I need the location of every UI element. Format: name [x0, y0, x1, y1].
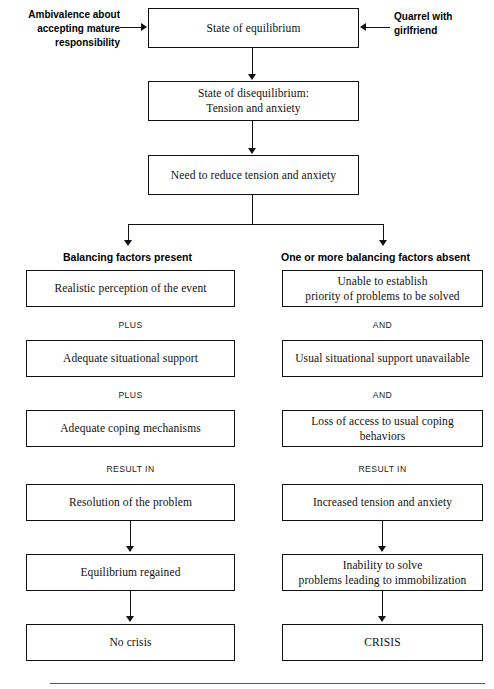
branch-left-arrowhead-icon: [124, 240, 132, 246]
branch-stem-line: [252, 195, 253, 225]
node-label: Increased tension and anxiety: [313, 495, 452, 510]
node-label: Loss of access to usual coping behaviors: [289, 414, 476, 443]
node-state-of-disequilibrium: State of disequilibrium: Tension and anx…: [148, 81, 359, 121]
side-note-right: Quarrel with girlfriend: [394, 10, 490, 38]
node-label: Usual situational support unavailable: [295, 351, 470, 366]
right-note-connector-line: [364, 27, 390, 28]
arrowhead-down-icon: [126, 616, 134, 622]
connector-word-result-in-left: RESULT IN: [26, 464, 235, 474]
node-need-to-reduce-tension: Need to reduce tension and anxiety: [148, 155, 359, 195]
node-crisis: CRISIS: [282, 624, 483, 661]
connector-word-result-in-right: RESULT IN: [282, 464, 483, 474]
connector-word-plus-1: PLUS: [26, 320, 235, 330]
connector-word-plus-2: PLUS: [26, 390, 235, 400]
crisis-flowchart-figure: Ambivalence about accepting mature respo…: [0, 0, 494, 689]
bottom-divider-rule: [50, 683, 485, 684]
arrowhead-down-icon: [248, 148, 256, 154]
branch-crossbar-line: [128, 224, 384, 225]
node-realistic-perception: Realistic perception of the event: [26, 270, 235, 307]
connector-increased-tension-to-inability: [382, 521, 383, 549]
connector-inability-to-crisis: [382, 591, 383, 619]
node-unable-to-establish-priority: Unable to establish priority of problems…: [282, 270, 483, 307]
side-note-left: Ambivalence about accepting mature respo…: [6, 8, 120, 49]
connector-word-and-1: AND: [282, 320, 483, 330]
branch-right-arrowhead-icon: [379, 240, 387, 246]
node-label: Realistic perception of the event: [54, 281, 206, 296]
column-heading-balancing-present: Balancing factors present: [20, 251, 235, 263]
node-inability-to-solve-problems: Inability to solve problems leading to i…: [282, 554, 483, 591]
node-increased-tension-and-anxiety: Increased tension and anxiety: [282, 484, 483, 521]
node-label: No crisis: [109, 635, 151, 650]
node-adequate-coping-mechanisms: Adequate coping mechanisms: [26, 410, 235, 447]
node-label: Inability to solve problems leading to i…: [299, 558, 467, 587]
node-label: Need to reduce tension and anxiety: [171, 168, 336, 183]
connector-resolution-to-equilibrium: [130, 521, 131, 549]
arrowhead-down-icon: [378, 546, 386, 552]
node-state-of-equilibrium: State of equilibrium: [148, 8, 359, 48]
node-adequate-situational-support: Adequate situational support: [26, 340, 235, 377]
node-no-crisis: No crisis: [26, 624, 235, 661]
connector-word-and-2: AND: [282, 390, 483, 400]
node-usual-situational-support-unavailable: Usual situational support unavailable: [282, 340, 483, 377]
node-label: State of equilibrium: [207, 21, 301, 36]
arrowhead-down-icon: [126, 546, 134, 552]
connector-equilibrium-to-no-crisis: [130, 591, 131, 619]
connector-equilibrium-to-disequilibrium: [252, 48, 253, 77]
node-label: Adequate situational support: [63, 351, 198, 366]
left-note-arrowhead-icon: [141, 23, 147, 31]
arrowhead-down-icon: [248, 74, 256, 80]
node-loss-of-access-to-coping: Loss of access to usual coping behaviors: [282, 410, 483, 447]
right-note-arrowhead-icon: [360, 23, 366, 31]
node-label: CRISIS: [364, 635, 400, 650]
arrowhead-down-icon: [378, 616, 386, 622]
node-label: State of disequilibrium: Tension and anx…: [198, 86, 309, 115]
node-label: Adequate coping mechanisms: [60, 421, 201, 436]
node-label: Resolution of the problem: [69, 495, 192, 510]
node-label: Equilibrium regained: [80, 565, 180, 580]
node-equilibrium-regained: Equilibrium regained: [26, 554, 235, 591]
node-resolution-of-the-problem: Resolution of the problem: [26, 484, 235, 521]
node-label: Unable to establish priority of problems…: [305, 274, 459, 303]
column-heading-balancing-absent: One or more balancing factors absent: [268, 251, 483, 263]
